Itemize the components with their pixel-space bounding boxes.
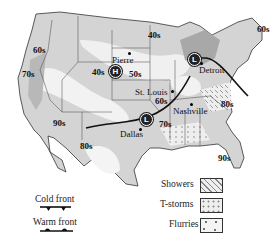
flurry-dot <box>203 228 205 230</box>
temp-label-se: 80s <box>221 100 234 109</box>
legend-tstorms-label: T-storms <box>160 200 193 210</box>
temp-label-west: 70s <box>22 70 35 79</box>
city-pierre: Pierre <box>112 56 134 65</box>
tstorms-swatch <box>200 198 223 213</box>
temp-label-nw: 60s <box>33 46 46 55</box>
flurry-dot <box>205 221 207 223</box>
city-detroit: Detroit <box>199 66 225 75</box>
low-pressure-icon-south: L <box>140 113 153 126</box>
legend-flurries-label: Flurries <box>169 220 199 230</box>
flurry-dot <box>214 229 216 231</box>
temp-label-sw: 90s <box>53 119 66 128</box>
legend-cold-front-label: Cold front <box>35 195 74 205</box>
stlouis-dot <box>171 90 174 93</box>
us-weather-map <box>0 0 276 242</box>
showers-swatch <box>200 178 223 193</box>
city-stlouis: St. Louis <box>135 88 168 97</box>
cold-front-legend-symbol <box>40 207 71 211</box>
legend-warm-front-label: Warm front <box>33 218 77 228</box>
low-pressure-icon-detroit: L <box>188 53 201 66</box>
city-nashville: Nashville <box>173 107 208 116</box>
legend-showers-label: Showers <box>161 180 194 190</box>
temp-label-plains: 50s <box>129 70 142 79</box>
warm-front-legend-symbol <box>40 229 73 232</box>
temp-label-rockies: 40s <box>92 68 105 77</box>
city-dallas: Dallas <box>120 130 143 139</box>
temp-label-stlouis: 60s <box>155 97 168 106</box>
temp-label-south: 70s <box>159 120 172 129</box>
temp-label-texas: 80s <box>80 142 93 151</box>
high-pressure-icon: H <box>109 65 122 78</box>
temp-label-florida: 90s <box>218 154 231 163</box>
temp-label-north: 40s <box>148 31 161 40</box>
temp-label-ne: 60s <box>257 25 270 34</box>
flurries-swatch <box>200 218 223 233</box>
flurry-dot <box>215 221 217 223</box>
